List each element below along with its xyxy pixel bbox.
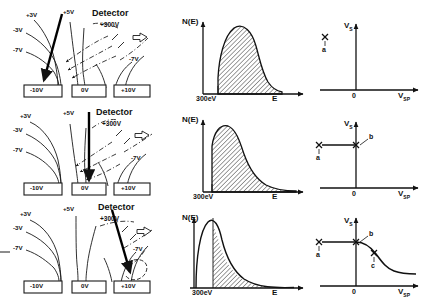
detector-arrow-icon xyxy=(135,131,149,140)
origin-label-row1: 0 xyxy=(352,92,356,99)
spectrum-xlabel-row3: E xyxy=(272,289,277,297)
spectrum-ylabel-row1: N(E) xyxy=(182,18,198,26)
vsp-xlabel-sub-row2: SP xyxy=(403,194,410,200)
electrode-label-0v-row1: 0V xyxy=(81,87,89,93)
vs-ylabel-sub-row2: S xyxy=(349,124,352,130)
point-label-c-row3: c xyxy=(371,262,375,269)
spectrum-xlabel-row2: E xyxy=(272,193,277,201)
equipotential-label-p5v-row2: +5V xyxy=(63,110,74,116)
point-label-b-row3: b xyxy=(369,230,373,237)
spectrum-xtick-row1: 300eV xyxy=(196,95,216,102)
electrode-label-m10v-row1: -10V xyxy=(30,87,43,93)
spectrum-xtick-row2: 300eV xyxy=(193,193,213,200)
electrode-label-0v-row3: 0V xyxy=(81,283,89,289)
vs-vsp-row1 xyxy=(320,24,418,90)
vsp-xlabel-row2: VSP xyxy=(398,190,410,200)
point-a-marker xyxy=(316,239,322,245)
vsp-xlabel-row1: VSP xyxy=(398,92,410,102)
detector-label-row2: Detector xyxy=(96,108,133,117)
detector-label-row1: Detector xyxy=(92,9,129,18)
spectrum-ylabel-row3: N(E) xyxy=(182,214,198,222)
spectrum-row3 xyxy=(190,218,303,288)
origin-label-row3: 0 xyxy=(352,288,356,295)
equipotential-label-m3v-row1: -3V xyxy=(13,27,23,33)
electrode-label-p10v-row3: +10V xyxy=(121,283,136,289)
equipotential-label-m3v-row2: -3V xyxy=(13,127,23,133)
vsp-xlabel-sub-row3: SP xyxy=(403,292,410,298)
vs-vsp-row3 xyxy=(316,218,418,286)
vs-ylabel-row3: VS xyxy=(344,217,353,227)
point-label-a-row2: a xyxy=(316,154,320,161)
vs-ylabel-row1: VS xyxy=(344,22,353,32)
vs-ylabel-sub-row3: S xyxy=(349,221,352,227)
detector-voltage-row3: +300V xyxy=(100,216,119,223)
spectrum-xlabel-row1: E xyxy=(272,95,277,103)
vs-ylabel-row2: VS xyxy=(344,120,353,130)
equipotential-label-p5v-row3: +5V xyxy=(63,206,74,212)
equipotential-label-m7v-right-row2: -7V xyxy=(131,155,141,161)
equipotential-label-p3v-row3: +3V xyxy=(20,211,31,217)
detector-arrow-icon xyxy=(137,227,151,236)
vsp-xlabel-row3: VSP xyxy=(398,288,410,298)
equipotential-label-m3v-row3: -3V xyxy=(13,225,23,231)
electrode-label-m10v-row3: -10V xyxy=(30,283,43,289)
equipotential-label-p5v-row1: +5V xyxy=(63,9,74,15)
scientific-figure xyxy=(0,0,429,304)
electrode-label-0v-row2: 0V xyxy=(81,185,89,191)
point-label-a-row1: a xyxy=(322,46,326,53)
equipotential-label-m7v-row1: -7V xyxy=(13,47,23,53)
detector-voltage-row1: +300V xyxy=(100,22,119,29)
point-label-b-row2: b xyxy=(369,133,373,140)
vs-vsp-row2 xyxy=(316,122,418,188)
equipotential-label-m7v-row2: -7V xyxy=(13,147,23,153)
point-a-marker xyxy=(316,142,322,148)
detector-voltage-row2: +300V xyxy=(102,121,121,128)
spectrum-xtick-row3: 300eV xyxy=(192,289,212,296)
equipotential-label-m7v-right-row3: -7V xyxy=(133,246,143,252)
detector-label-row3: Detector xyxy=(98,203,135,212)
origin-label-row2: 0 xyxy=(352,190,356,197)
spectrum-row2 xyxy=(203,120,303,192)
equipotential-label-m7v-right-row1: -7V xyxy=(129,56,139,62)
equipotential-label-m7v-row3: -7V xyxy=(13,245,23,251)
point-a-marker xyxy=(322,34,328,40)
spectrum-ylabel-row2: N(E) xyxy=(182,116,198,124)
electrode-label-p10v-row1: +10V xyxy=(121,87,136,93)
vsp-xlabel-sub-row1: SP xyxy=(403,96,410,102)
electrode-label-m10v-row2: -10V xyxy=(30,185,43,191)
vs-ylabel-sub-row1: S xyxy=(349,26,352,32)
electrode-label-p10v-row2: +10V xyxy=(121,185,136,191)
equipotential-label-p3v-row2: +3V xyxy=(20,113,31,119)
spectrum-row1 xyxy=(203,22,303,94)
equipotential-label-p3v-row1: +3V xyxy=(26,12,37,18)
point-label-a-row3: a xyxy=(316,251,320,258)
